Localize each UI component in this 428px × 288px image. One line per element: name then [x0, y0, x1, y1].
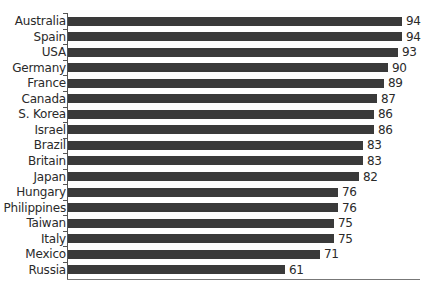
value-label: 89 [388, 76, 403, 90]
category-label: Germany [12, 61, 66, 75]
value-label: 83 [367, 138, 382, 152]
value-label: 87 [381, 92, 396, 106]
category-label: France [27, 76, 66, 90]
horizontal-bar-chart: Australia94Spain94USA93Germany90France89… [0, 0, 428, 288]
bar [68, 250, 320, 259]
bar [68, 172, 359, 181]
category-label: Mexico [25, 247, 66, 261]
value-label: 86 [378, 123, 393, 137]
value-label: 82 [363, 170, 378, 184]
value-label: 86 [378, 107, 393, 121]
category-label: Canada [22, 92, 66, 106]
category-label: Taiwan [26, 216, 66, 230]
bar [68, 63, 388, 72]
category-label: Hungary [16, 185, 66, 199]
value-label: 93 [402, 45, 417, 59]
category-label: Philippines [4, 201, 66, 215]
bar [68, 188, 338, 197]
category-label: S. Korea [18, 107, 66, 121]
bar [68, 234, 334, 243]
bar [68, 94, 377, 103]
category-label: Russia [29, 263, 66, 277]
category-label: Britain [28, 154, 66, 168]
value-label: 94 [406, 30, 421, 44]
bar [68, 48, 398, 57]
bar [68, 265, 285, 274]
bar [68, 203, 338, 212]
category-label: Italy [41, 232, 66, 246]
value-label: 71 [324, 247, 339, 261]
value-label: 75 [338, 216, 353, 230]
bar [68, 141, 363, 150]
value-label: 90 [392, 61, 407, 75]
bar [68, 156, 363, 165]
bar [68, 125, 374, 134]
value-label: 94 [406, 14, 421, 28]
value-label: 76 [342, 185, 357, 199]
category-label: Brazil [34, 138, 66, 152]
category-label: Japan [34, 170, 66, 184]
category-label: Australia [15, 14, 66, 28]
value-label: 61 [289, 263, 304, 277]
category-label: Spain [33, 30, 66, 44]
value-label: 75 [338, 232, 353, 246]
x-axis-line [67, 279, 420, 280]
value-label: 83 [367, 154, 382, 168]
category-label: USA [42, 45, 66, 59]
bar [68, 110, 374, 119]
bar [68, 219, 334, 228]
category-label: Israel [34, 123, 66, 137]
bar [68, 17, 402, 26]
bar [68, 32, 402, 41]
bar [68, 79, 384, 88]
value-label: 76 [342, 201, 357, 215]
